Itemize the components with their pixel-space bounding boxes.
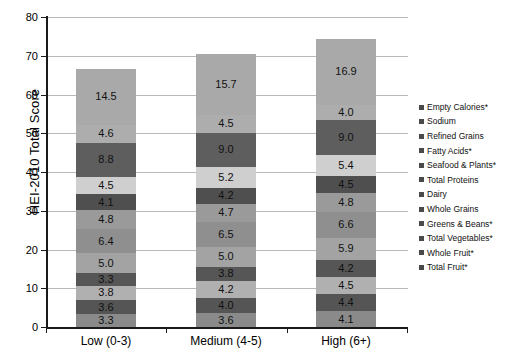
bar-segment[interactable]: 9.0 (196, 133, 256, 168)
bar-segment[interactable]: 8.8 (76, 143, 136, 177)
y-axis-tick-label: 60 (8, 90, 38, 101)
x-axis-tick (166, 327, 167, 333)
legend-label: Dairy (427, 190, 447, 199)
bar-segment[interactable]: 5.0 (196, 247, 256, 266)
legend-swatch-icon (419, 105, 424, 110)
legend-item[interactable]: Total Vegetables* (419, 232, 508, 244)
x-axis-tick (407, 327, 408, 333)
bar-segment[interactable]: 15.7 (196, 54, 256, 115)
legend-item[interactable]: Fatty Acids* (419, 145, 508, 157)
legend-label: Fatty Acids* (427, 147, 472, 156)
bar-stack[interactable]: 16.94.09.05.44.54.86.65.94.24.54.44.1 (316, 39, 376, 327)
bar-segment[interactable]: 4.8 (316, 193, 376, 212)
legend-item[interactable]: Seafood & Plants* (419, 159, 508, 171)
bar-segment[interactable]: 4.0 (196, 298, 256, 314)
bar-segment[interactable]: 3.6 (76, 300, 136, 314)
bars-layer: 14.54.68.84.54.14.86.45.03.33.83.63.315.… (47, 17, 408, 327)
bar-segment[interactable]: 3.6 (196, 313, 256, 327)
bar-segment[interactable]: 4.5 (76, 177, 136, 194)
bar-stack[interactable]: 14.54.68.84.54.14.86.45.03.33.83.63.3 (76, 69, 136, 327)
bar-segment[interactable]: 9.0 (316, 120, 376, 155)
bar-segment[interactable]: 5.0 (76, 253, 136, 272)
bar-segment[interactable]: 4.4 (316, 294, 376, 311)
bar-segment[interactable]: 4.5 (196, 115, 256, 132)
legend-label: Total Vegetables* (427, 234, 493, 243)
legend-label: Seafood & Plants* (427, 161, 496, 170)
legend-swatch-icon (419, 134, 424, 139)
legend-item[interactable]: Whole Grains (419, 203, 508, 215)
x-axis-category-label: Medium (4-5) (166, 334, 286, 348)
legend-label: Total Proteins (427, 176, 479, 185)
x-axis-line (46, 327, 408, 329)
y-axis-tick-label: 40 (8, 167, 38, 178)
y-axis-tick-label: 30 (8, 206, 38, 217)
legend-label: Whole Fruit* (427, 249, 474, 258)
bar-segment[interactable]: 14.5 (76, 69, 136, 125)
legend-swatch-icon (419, 192, 424, 197)
legend-swatch-icon (419, 265, 424, 270)
legend-item[interactable]: Total Proteins (419, 174, 508, 186)
bar-segment[interactable]: 6.4 (76, 229, 136, 254)
legend-swatch-icon (419, 119, 424, 124)
legend-item[interactable]: Sodium (419, 116, 508, 128)
y-axis-tick-label: 50 (8, 128, 38, 139)
bar-segment[interactable]: 4.5 (316, 176, 376, 193)
bar-segment[interactable]: 5.9 (316, 238, 376, 261)
y-axis-tick-label: 20 (8, 245, 38, 256)
legend: Empty Calories*SodiumRefined GrainsFatty… (419, 101, 508, 276)
bar-stack[interactable]: 15.74.59.05.24.24.76.55.03.84.24.03.6 (196, 54, 256, 327)
bar-segment[interactable]: 4.2 (196, 188, 256, 204)
x-axis-tick (46, 327, 47, 333)
y-axis-tick-label: 10 (8, 283, 38, 294)
legend-item[interactable]: Refined Grains (419, 130, 508, 142)
bar-segment[interactable]: 3.8 (196, 267, 256, 282)
bar-segment[interactable]: 3.3 (76, 273, 136, 286)
bar-segment[interactable]: 4.8 (76, 210, 136, 229)
bar-segment[interactable]: 4.0 (316, 105, 376, 121)
bar-segment[interactable]: 4.1 (76, 194, 136, 210)
legend-label: Empty Calories* (427, 103, 488, 112)
legend-item[interactable]: Total Fruit* (419, 262, 508, 274)
legend-item[interactable]: Greens & Beans* (419, 218, 508, 230)
x-axis-category-label: Low (0-3) (46, 334, 166, 348)
bar-segment[interactable]: 6.5 (196, 222, 256, 247)
legend-swatch-icon (419, 221, 424, 226)
bar-segment[interactable]: 4.2 (196, 281, 256, 297)
bar-segment[interactable]: 16.9 (316, 39, 376, 104)
bar-segment[interactable]: 4.6 (76, 125, 136, 143)
legend-item[interactable]: Empty Calories* (419, 101, 508, 113)
legend-label: Total Fruit* (427, 263, 468, 272)
legend-label: Greens & Beans* (427, 220, 493, 229)
bar-segment[interactable]: 6.6 (316, 212, 376, 238)
bar-segment[interactable]: 4.1 (316, 311, 376, 327)
chart-container: HEI-2010 Total Score 01020304050607080 1… (0, 0, 508, 361)
legend-swatch-icon (419, 177, 424, 182)
legend-label: Refined Grains (427, 132, 484, 141)
x-axis-tick (287, 327, 288, 333)
legend-swatch-icon (419, 163, 424, 168)
legend-swatch-icon (419, 207, 424, 212)
legend-swatch-icon (419, 250, 424, 255)
bar-segment[interactable]: 4.7 (196, 204, 256, 222)
y-axis-tick-label: 70 (8, 51, 38, 62)
y-axis-tick-label: 80 (8, 12, 38, 23)
bar-segment[interactable]: 5.2 (196, 167, 256, 187)
bar-segment[interactable]: 5.4 (316, 155, 376, 176)
legend-label: Whole Grains (427, 205, 479, 214)
legend-label: Sodium (427, 117, 456, 126)
legend-swatch-icon (419, 236, 424, 241)
legend-item[interactable]: Dairy (419, 189, 508, 201)
bar-segment[interactable]: 3.3 (76, 314, 136, 327)
x-axis-category-label: High (6+) (286, 334, 406, 348)
bar-segment[interactable]: 3.8 (76, 286, 136, 301)
legend-item[interactable]: Whole Fruit* (419, 247, 508, 259)
bar-segment[interactable]: 4.2 (316, 260, 376, 276)
legend-swatch-icon (419, 148, 424, 153)
y-axis-tick-label: 0 (8, 322, 38, 333)
bar-segment[interactable]: 4.5 (316, 277, 376, 294)
